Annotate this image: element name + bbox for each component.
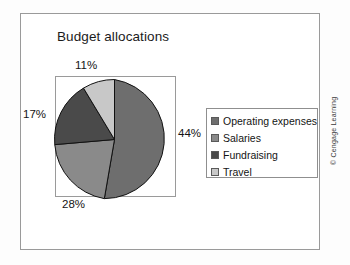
pie-label-travel: 11% (75, 59, 97, 71)
legend-label-travel: Travel (223, 167, 252, 178)
legend-swatch-fundraising (211, 151, 219, 159)
legend-label-operating-expenses: Operating expenses (223, 116, 317, 127)
legend-label-fundraising: Fundraising (223, 150, 278, 161)
pie-slice-salaries (55, 140, 115, 199)
legend-swatch-operating-expenses (211, 117, 219, 125)
pie-label-salaries: 28% (62, 198, 85, 210)
copyright-notice: © Cengage Learning (330, 97, 337, 165)
pie-label-operating-expenses: 44% (178, 127, 201, 139)
pie-label-fundraising: 17% (23, 108, 46, 120)
figure-canvas: Budget allocations 11% 17% 44% 28% Opera… (0, 0, 350, 265)
legend-item-operating-expenses: Operating expenses (211, 113, 317, 129)
legend-swatch-salaries (211, 134, 219, 142)
chart-legend: Operating expenses Salaries Fundraising … (206, 108, 318, 178)
legend-swatch-travel (211, 168, 219, 176)
legend-item-salaries: Salaries (211, 130, 317, 146)
page-title: Budget allocations (57, 29, 169, 44)
legend-item-fundraising: Fundraising (211, 147, 317, 163)
legend-label-salaries: Salaries (223, 133, 261, 144)
pie-chart (48, 73, 181, 206)
legend-item-travel: Travel (211, 164, 317, 180)
